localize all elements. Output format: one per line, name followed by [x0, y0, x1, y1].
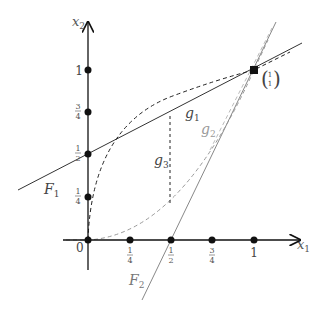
svg-text:1: 1 — [75, 64, 83, 78]
x-tick-half: 1 2 — [168, 237, 175, 266]
curve-g1 — [88, 52, 290, 240]
y-tick-three-quarters: 3 4 — [75, 102, 92, 121]
svg-text:1: 1 — [127, 246, 132, 255]
label-f2: F2 — [128, 272, 144, 290]
label-g3: g3 — [154, 152, 169, 170]
svg-text:2: 2 — [168, 256, 173, 265]
function-diagram: x1 x2 0 1 4 1 2 3 4 1 1 4 1 2 3 — [0, 0, 322, 313]
y-axis-label: x2 — [72, 14, 85, 31]
svg-text:4: 4 — [75, 197, 80, 206]
point-one-one-label: ( ) 1 1 — [261, 67, 281, 91]
origin-label: 0 — [76, 241, 84, 255]
label-g1: g1 — [185, 105, 200, 123]
x-axis-label: x1 — [297, 237, 310, 254]
svg-text:1: 1 — [75, 187, 80, 196]
y-tick-quarter: 1 4 — [75, 187, 92, 206]
svg-text:4: 4 — [127, 256, 132, 265]
label-f1: F1 — [43, 181, 59, 199]
svg-text:2: 2 — [75, 154, 80, 163]
curve-g2 — [66, 40, 268, 240]
point-one-one — [250, 66, 258, 74]
x-tick-quarter: 1 4 — [127, 237, 134, 266]
label-g2: g2 — [201, 121, 216, 139]
svg-text:1: 1 — [250, 246, 258, 260]
svg-text:1: 1 — [75, 144, 80, 153]
svg-text:1: 1 — [168, 246, 173, 255]
svg-text:4: 4 — [75, 112, 80, 121]
origin-point — [85, 237, 92, 244]
svg-text:3: 3 — [75, 102, 80, 111]
svg-text:3: 3 — [209, 246, 214, 255]
y-tick-one: 1 — [75, 64, 91, 78]
x-tick-one: 1 — [250, 237, 258, 261]
svg-text:): ) — [273, 67, 281, 91]
svg-text:4: 4 — [209, 256, 214, 265]
svg-text:1: 1 — [268, 80, 272, 88]
svg-text:1: 1 — [268, 71, 272, 79]
y-tick-half: 1 2 — [75, 144, 92, 163]
x-tick-three-quarters: 3 4 — [209, 237, 216, 266]
